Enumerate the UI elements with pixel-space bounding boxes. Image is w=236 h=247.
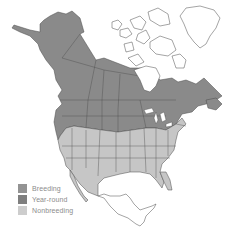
newfoundland (206, 98, 222, 110)
greenland (180, 6, 220, 48)
breeding-swatch (18, 184, 27, 193)
legend-item-breeding: Breeding (18, 183, 73, 194)
arctic-islands (112, 8, 186, 68)
year-round-swatch (18, 195, 27, 204)
southern-mexico (98, 194, 156, 226)
map-legend: Breeding Year-round Nonbreeding (18, 183, 73, 216)
nonbreeding-swatch (18, 206, 27, 215)
legend-item-nonbreeding: Nonbreeding (18, 205, 73, 216)
legend-item-year-round: Year-round (18, 194, 73, 205)
legend-label-breeding: Breeding (32, 183, 61, 194)
legend-label-year-round: Year-round (32, 194, 67, 205)
legend-label-nonbreeding: Nonbreeding (32, 205, 73, 216)
